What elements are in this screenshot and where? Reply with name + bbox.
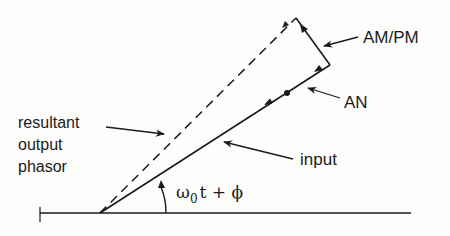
resultant-label-line3: phasor [18,158,68,175]
resultant-label-line2: output [18,136,63,153]
am-pm-pointer [324,37,358,46]
angle-omega: ω [176,182,190,202]
am-pm-label: AM/PM [363,28,419,47]
an-pointer [308,88,340,98]
resultant-label-line1: resultant [18,114,80,131]
baseline-axis [40,207,411,222]
phasor-diagram: AM/PM AN resultant output phasor input ω… [0,0,450,236]
resultant-phasor [100,18,296,213]
input-endpoint-dot [284,90,290,96]
angle-arc [158,180,166,213]
input-label: input [300,150,337,169]
an-label: AN [344,93,368,112]
resultant-pointer [106,127,164,134]
input-pointer [224,142,293,159]
am-pm-segment [296,18,330,65]
angle-subscript: 0 [190,192,198,206]
angle-rest: t + ϕ [200,182,243,202]
angle-label: ω0t + ϕ [176,182,243,206]
